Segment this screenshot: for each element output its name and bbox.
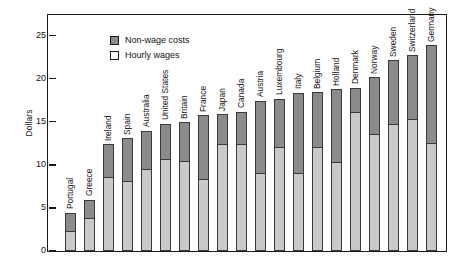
bar-denmark[interactable] (350, 88, 361, 252)
bar-segment-hourly-wages (312, 148, 323, 251)
legend-swatch-hourly-wages (110, 51, 119, 60)
bar-italy[interactable] (293, 93, 304, 252)
legend-label-hourly-wages: Hourly wages (125, 50, 180, 60)
y-tick-mark (49, 250, 56, 251)
bar-austria[interactable] (255, 101, 266, 252)
legend-label-non-wage-costs: Non-wage costs (125, 35, 190, 45)
chart-legend: Non-wage costs Hourly wages (110, 34, 190, 64)
y-axis-title: Dollars (24, 93, 34, 153)
bar-sweden[interactable] (388, 60, 399, 251)
bar-segment-non-wage-costs (293, 93, 304, 174)
bar-segment-non-wage-costs (236, 112, 247, 146)
y-tick-label: 10 (36, 159, 46, 169)
y-tick-label: 5 (41, 202, 46, 212)
y-tick-label: 15 (36, 116, 46, 126)
bar-segment-non-wage-costs (179, 122, 190, 162)
legend-swatch-non-wage-costs (110, 36, 119, 45)
bar-france[interactable] (198, 115, 209, 251)
legend-item-non-wage-costs: Non-wage costs (110, 34, 190, 46)
bar-segment-non-wage-costs (255, 101, 266, 174)
bar-norway[interactable] (369, 77, 380, 251)
bar-segment-hourly-wages (103, 178, 114, 251)
bar-japan[interactable] (217, 114, 228, 251)
bar-segment-non-wage-costs (103, 144, 114, 178)
bar-segment-hourly-wages (369, 135, 380, 251)
y-tick-label: 25 (36, 30, 46, 40)
bar-segment-non-wage-costs (141, 131, 152, 171)
y-tick-label: 20 (36, 73, 46, 83)
bar-segment-hourly-wages (141, 170, 152, 251)
bar-segment-hourly-wages (388, 125, 399, 252)
bar-spain[interactable] (122, 138, 133, 251)
y-tick-mark (49, 78, 56, 79)
bar-segment-hourly-wages (255, 174, 266, 252)
bar-ireland[interactable] (103, 144, 114, 251)
bar-switzerland[interactable] (407, 55, 418, 251)
bar-holland[interactable] (331, 89, 342, 251)
y-tick-mark (49, 121, 56, 122)
bar-segment-hourly-wages (198, 180, 209, 252)
bar-germany[interactable] (426, 45, 437, 251)
y-tick-mark (49, 35, 56, 36)
bar-segment-hourly-wages (331, 163, 342, 251)
bar-segment-hourly-wages (84, 219, 95, 252)
bar-segment-non-wage-costs (407, 55, 418, 120)
bar-segment-non-wage-costs (160, 124, 171, 160)
bar-segment-non-wage-costs (274, 99, 285, 148)
bar-segment-non-wage-costs (198, 115, 209, 180)
bar-segment-hourly-wages (407, 120, 418, 251)
bar-united-states[interactable] (160, 124, 171, 252)
bar-segment-non-wage-costs (217, 114, 228, 145)
bar-segment-hourly-wages (350, 113, 361, 251)
y-tick-mark (49, 164, 56, 165)
bar-segment-non-wage-costs (65, 213, 76, 233)
bar-segment-hourly-wages (217, 145, 228, 251)
bar-segment-non-wage-costs (84, 200, 95, 219)
bar-segment-hourly-wages (160, 160, 171, 251)
y-tick-label: 0 (41, 245, 46, 255)
bar-segment-non-wage-costs (312, 92, 323, 148)
bar-segment-non-wage-costs (122, 138, 133, 181)
bar-britain[interactable] (179, 122, 190, 251)
bar-luxembourg[interactable] (274, 99, 285, 252)
bar-segment-non-wage-costs (350, 88, 361, 114)
bar-belgium[interactable] (312, 92, 323, 251)
bar-segment-hourly-wages (426, 144, 437, 252)
bar-segment-hourly-wages (236, 145, 247, 251)
bar-segment-hourly-wages (179, 162, 190, 252)
bar-segment-non-wage-costs (388, 60, 399, 125)
stacked-bar-chart: Dollars Non-wage costs Hourly wages 0510… (0, 0, 456, 267)
bar-canada[interactable] (236, 112, 247, 252)
bar-segment-hourly-wages (293, 174, 304, 252)
legend-item-hourly-wages: Hourly wages (110, 49, 190, 61)
bar-segment-non-wage-costs (331, 89, 342, 163)
bar-australia[interactable] (141, 131, 152, 252)
bar-segment-non-wage-costs (426, 45, 437, 143)
bar-segment-hourly-wages (274, 148, 285, 251)
bar-greece[interactable] (84, 200, 95, 252)
bar-segment-hourly-wages (65, 232, 76, 251)
bar-segment-non-wage-costs (369, 77, 380, 135)
bar-segment-hourly-wages (122, 182, 133, 252)
bar-portugal[interactable] (65, 213, 76, 252)
y-tick-mark (49, 207, 56, 208)
